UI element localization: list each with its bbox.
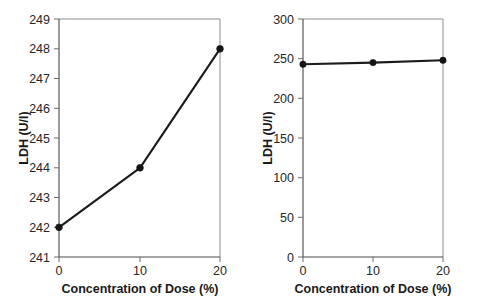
left-ytick-label-247: 247 [29, 72, 50, 86]
right-data-point [300, 61, 306, 67]
right-x-axis-title: Concentration of Dose (%) [295, 282, 452, 296]
right-chart-svg: 0 50 100 150 200 250 300 0 10 20 Concent… [246, 0, 492, 301]
left-xtick-label-10: 10 [133, 264, 147, 278]
right-ytick-label-200: 200 [273, 92, 294, 106]
left-ytick-label-242: 242 [29, 221, 50, 235]
left-y-ticks [54, 19, 59, 257]
left-data-point [137, 164, 144, 171]
left-xtick-label-0: 0 [56, 264, 63, 278]
right-ytick-label-150: 150 [273, 132, 294, 146]
chart-panel-right: 0 50 100 150 200 250 300 0 10 20 Concent… [246, 0, 492, 301]
left-ytick-label-241: 241 [29, 251, 50, 265]
chart-panel-left: 241 242 243 244 245 246 247 248 249 0 10… [0, 0, 246, 301]
left-ytick-label-243: 243 [29, 191, 50, 205]
right-x-ticks [303, 257, 443, 262]
left-data-point [56, 224, 63, 231]
left-ytick-label-246: 246 [29, 102, 50, 116]
left-plot-background [59, 19, 220, 257]
left-chart-svg: 241 242 243 244 245 246 247 248 249 0 10… [0, 0, 246, 301]
right-ytick-label-50: 50 [280, 211, 294, 225]
right-xtick-label-0: 0 [300, 264, 307, 278]
left-ytick-label-245: 245 [29, 132, 50, 146]
right-y-ticks [298, 19, 303, 257]
right-ytick-label-300: 300 [273, 13, 294, 27]
left-ytick-label-249: 249 [29, 13, 50, 27]
figure-canvas: 241 242 243 244 245 246 247 248 249 0 10… [0, 0, 492, 301]
right-xtick-label-20: 20 [436, 264, 450, 278]
right-ytick-label-100: 100 [273, 171, 294, 185]
right-data-point [440, 57, 446, 63]
right-data-point [370, 59, 376, 65]
left-ytick-label-248: 248 [29, 42, 50, 56]
left-data-point [217, 45, 224, 52]
right-plot-background [303, 19, 443, 257]
left-x-axis-title: Concentration of Dose (%) [62, 282, 219, 296]
right-ytick-label-0: 0 [287, 251, 294, 265]
left-y-axis-title: LDH (U/l) [17, 111, 31, 164]
right-ytick-label-250: 250 [273, 52, 294, 66]
left-x-ticks [59, 257, 220, 262]
right-xtick-label-10: 10 [366, 264, 380, 278]
right-y-axis-title: LDH (U/l) [261, 111, 275, 164]
left-xtick-label-20: 20 [213, 264, 227, 278]
left-ytick-label-244: 244 [29, 161, 50, 175]
